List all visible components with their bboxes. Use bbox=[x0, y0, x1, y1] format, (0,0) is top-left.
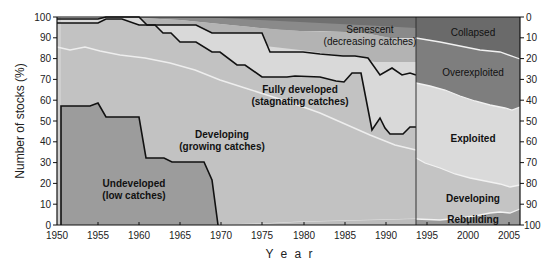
svg-text:40: 40 bbox=[40, 136, 52, 147]
svg-text:10: 10 bbox=[40, 199, 52, 210]
svg-text:1955: 1955 bbox=[87, 230, 110, 241]
svg-text:50: 50 bbox=[40, 116, 52, 127]
svg-text:1990: 1990 bbox=[375, 230, 398, 241]
label-developing-sub: (growing catches) bbox=[179, 141, 265, 152]
x-axis-label: Y e a r bbox=[265, 247, 314, 261]
svg-text:30: 30 bbox=[526, 74, 538, 85]
svg-text:90: 90 bbox=[526, 199, 538, 210]
svg-text:100: 100 bbox=[524, 220, 541, 231]
svg-text:30: 30 bbox=[40, 157, 52, 168]
svg-text:100: 100 bbox=[34, 12, 51, 23]
label-exploited: Exploited bbox=[450, 133, 495, 144]
label-fully-developed: Fully developed bbox=[262, 84, 338, 95]
svg-text:1980: 1980 bbox=[293, 230, 316, 241]
svg-text:2005: 2005 bbox=[498, 230, 521, 241]
label-developing: Developing bbox=[195, 129, 249, 140]
svg-text:80: 80 bbox=[40, 53, 52, 64]
label-senescent-sub: (decreasing catches) bbox=[324, 36, 417, 47]
y-axis-label: Number of stocks (%) bbox=[13, 63, 27, 178]
label-undeveloped-sub: (low catches) bbox=[102, 190, 165, 201]
svg-text:1960: 1960 bbox=[128, 230, 151, 241]
svg-text:90: 90 bbox=[40, 32, 52, 43]
svg-text:0: 0 bbox=[526, 12, 532, 23]
svg-text:40: 40 bbox=[526, 95, 538, 106]
label-collapsed: Collapsed bbox=[451, 27, 495, 38]
svg-text:60: 60 bbox=[526, 136, 538, 147]
svg-text:0: 0 bbox=[45, 220, 51, 231]
svg-text:20: 20 bbox=[526, 53, 538, 64]
y-axis-left-ticks: 100 90 80 70 60 50 40 30 20 10 0 bbox=[34, 12, 51, 231]
label-developing-right: Developing bbox=[446, 193, 500, 204]
svg-text:1995: 1995 bbox=[416, 230, 439, 241]
label-fully-developed-sub: (stagnating catches) bbox=[251, 96, 348, 107]
y-axis-right-ticks: 0 10 20 30 40 50 60 70 80 90 100 bbox=[524, 12, 541, 231]
label-overexploited: Overexploited bbox=[442, 67, 504, 78]
label-undeveloped: Undeveloped bbox=[103, 178, 166, 189]
svg-text:60: 60 bbox=[40, 95, 52, 106]
label-rebuilding: Rebuilding bbox=[447, 214, 499, 225]
svg-text:1950: 1950 bbox=[46, 230, 69, 241]
svg-text:70: 70 bbox=[40, 74, 52, 85]
svg-text:1985: 1985 bbox=[334, 230, 357, 241]
svg-text:80: 80 bbox=[526, 178, 538, 189]
svg-text:20: 20 bbox=[40, 178, 52, 189]
svg-text:1970: 1970 bbox=[210, 230, 233, 241]
svg-text:10: 10 bbox=[526, 32, 538, 43]
label-senescent: Senescent bbox=[346, 24, 393, 35]
svg-text:1975: 1975 bbox=[251, 230, 274, 241]
svg-text:2000: 2000 bbox=[457, 230, 480, 241]
svg-text:50: 50 bbox=[526, 116, 538, 127]
svg-text:70: 70 bbox=[526, 157, 538, 168]
x-axis-ticks: 1950 1955 1960 1965 1970 1975 1980 1985 … bbox=[46, 230, 521, 241]
stock-status-chart: 100 90 80 70 60 50 40 30 20 10 0 0 10 20… bbox=[0, 0, 548, 273]
svg-text:1965: 1965 bbox=[169, 230, 192, 241]
